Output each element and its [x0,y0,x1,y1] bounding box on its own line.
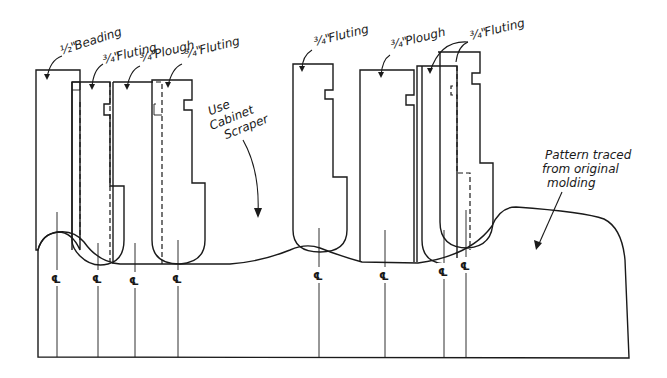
label-pattern-traced: Pattern traced from original molding [542,148,632,190]
svg-text:Fluting: Fluting [483,16,527,40]
molding-cutter-diagram: ℄ ℄ ℄ ℄ ℄ ℄ ℄ ℄ ½" Beading ¾" Fluting ¾"… [0,0,667,378]
cutter-fluting-2 [152,80,205,264]
centerline-symbol: ℄ [379,270,389,283]
svg-text:Pattern traced: Pattern traced [545,148,632,162]
centerline-symbol: ℄ [129,275,139,288]
centerline-symbol: ℄ [460,260,470,273]
label-fluting-4: ¾" Fluting [468,16,526,43]
centerline-symbol: ℄ [313,270,323,283]
cutter-plough-1 [113,82,153,264]
cutter-fluting-3 [293,64,347,252]
cutter-plough-2 [360,70,414,262]
label-fluting-3: ¾" Fluting [312,22,370,49]
svg-text:molding: molding [547,176,596,190]
centerline-symbol: ℄ [172,273,182,286]
label-plough-2: ¾" Plough [389,25,446,52]
label-cabinet-scraper: Use Cabinet Scraper [202,85,271,145]
svg-text:Fluting: Fluting [198,34,242,58]
centerline-symbol: ℄ [92,273,102,286]
svg-text:Plough: Plough [404,25,447,48]
cutter-beading [36,70,80,250]
centerlines [57,210,466,357]
centerline-symbol: ℄ [438,266,448,279]
cutter-fluting-4 [417,52,493,264]
svg-text:from original: from original [542,162,620,176]
molding-pattern-outline [38,207,629,358]
centerline-symbol: ℄ [51,273,61,286]
svg-text:Fluting: Fluting [327,22,371,46]
